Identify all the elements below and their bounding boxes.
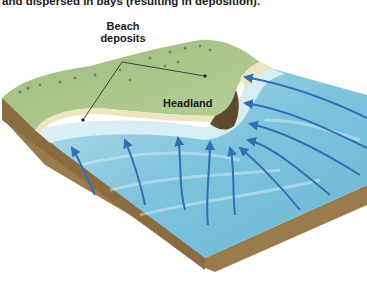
beach-deposits-line2: deposits <box>98 32 148 44</box>
beach-deposits-label: Beach deposits <box>98 20 148 44</box>
headland-label: Headland <box>163 97 213 109</box>
beach-deposits-line1: Beach <box>98 20 148 32</box>
block-diagram <box>0 0 367 285</box>
land-surface <box>2 40 272 133</box>
